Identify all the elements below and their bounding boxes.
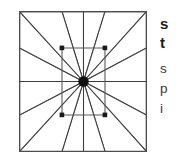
caption-heading-line-1: s [160,14,176,33]
figure-page: s t s p i [0,0,176,163]
node-top-right [103,46,108,51]
caption-body-line-1: s [160,59,176,79]
caption-spacer [160,52,176,59]
center-hub [78,76,88,86]
node-bottom-left [60,113,65,118]
node-top-left [60,46,65,51]
caption-heading-line-2: t [160,33,176,52]
caption-body-line-2: p [160,79,176,99]
node-bottom-right [103,113,108,118]
caption-text-column: s t s p i [160,14,176,159]
star-diagram-container [0,0,152,163]
caption-body-line-3: i [160,99,176,119]
eight-pointed-star-figure [19,11,147,152]
